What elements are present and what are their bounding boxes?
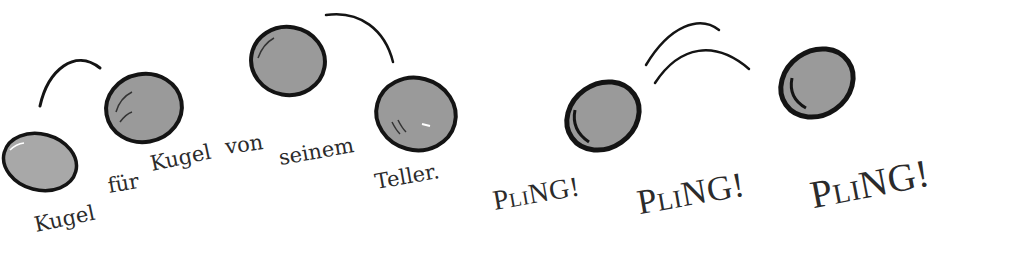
ball-icon [0,125,83,198]
motion-arc-icon [40,60,100,106]
ball-icon [101,68,188,148]
motion-arc-icon [655,50,749,83]
ball-icon [554,68,653,164]
ball-icon [246,21,331,101]
ball-icon [768,35,867,131]
illustration-canvas [0,0,1011,267]
book-illustration: Kugel für Kugel von seinem Teller. PLING… [0,0,1011,267]
motion-arc-icon [326,14,393,62]
ball-icon [368,69,464,159]
motion-arc-icon [646,23,719,65]
